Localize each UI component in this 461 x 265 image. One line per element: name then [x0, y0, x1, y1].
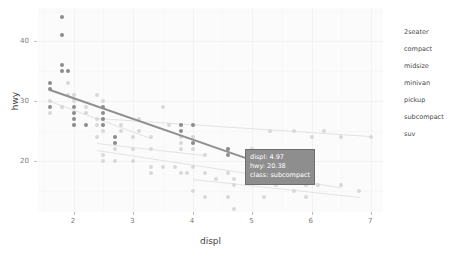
data-point-dim [84, 105, 88, 109]
legend-item-suv[interactable]: suv [404, 126, 461, 143]
data-point-dim [339, 135, 343, 139]
data-point-subcompact[interactable] [48, 81, 52, 85]
plot-panel[interactable] [38, 8, 383, 212]
data-point-dim [149, 165, 153, 169]
data-point-subcompact[interactable] [60, 63, 64, 67]
data-point-dim [48, 111, 52, 115]
data-point-subcompact[interactable] [60, 15, 64, 19]
data-point-dim [191, 189, 195, 193]
gridline-horizontal [38, 161, 383, 162]
legend-item-minivan[interactable]: minivan [404, 75, 461, 92]
tooltip-hwy: hwy: 20.38 [250, 162, 310, 171]
data-point-dim [84, 111, 88, 115]
legend-item-subcompact[interactable]: subcompact [404, 109, 461, 126]
x-tick-mark [74, 212, 75, 215]
legend-item-2seater[interactable]: 2seater [404, 24, 461, 41]
x-tick-label: 7 [368, 217, 372, 225]
gridline-vertical-minor [44, 8, 45, 212]
data-point-dim [149, 147, 153, 151]
x-tick-mark [133, 212, 134, 215]
data-point-dim [113, 147, 117, 151]
data-point-dim [119, 123, 123, 127]
x-tick-label: 4 [190, 217, 194, 225]
y-tick-label: 20 [20, 157, 29, 165]
data-point-dim [232, 207, 236, 211]
scatter-plot-root: 403020 234567 hwy displ 2seatercompactmi… [0, 0, 461, 265]
data-point-dim [131, 147, 135, 151]
x-tick-label: 3 [130, 217, 134, 225]
x-tick-mark [193, 212, 194, 215]
data-point-dim [66, 81, 70, 85]
data-point-dim [167, 123, 171, 127]
data-point-dim [179, 171, 183, 175]
data-point-dim [191, 165, 195, 169]
data-point-dim [191, 147, 195, 151]
y-tick-label: 40 [20, 37, 29, 45]
data-point-dim [226, 171, 230, 175]
data-point-dim [149, 171, 153, 175]
tooltip: displ: 4.97 hwy: 20.38 class: subcompact [245, 149, 315, 185]
data-point-dim [292, 129, 296, 133]
tooltip-class: class: subcompact [250, 171, 310, 180]
x-tick-label: 2 [71, 217, 75, 225]
data-point-subcompact[interactable] [72, 111, 76, 115]
data-point-subcompact[interactable] [101, 123, 105, 127]
data-point-dim [214, 177, 218, 181]
data-point-dim [203, 153, 207, 157]
data-point-dim [357, 189, 361, 193]
data-point-subcompact[interactable] [60, 33, 64, 37]
data-point-subcompact[interactable] [72, 117, 76, 121]
gridline-horizontal-minor [38, 71, 383, 72]
data-point-dim [292, 189, 296, 193]
data-point-subcompact[interactable] [191, 141, 195, 145]
x-tick-mark [312, 212, 313, 215]
data-point-subcompact[interactable] [60, 69, 64, 73]
data-point-subcompact[interactable] [179, 123, 183, 127]
data-point-dim [95, 117, 99, 121]
gridline-vertical-minor [341, 8, 342, 212]
legend-item-pickup[interactable]: pickup [404, 92, 461, 109]
y-axis-title: hwy [10, 92, 20, 110]
data-point-dim [316, 183, 320, 187]
data-point-dim [131, 159, 135, 163]
data-point-subcompact[interactable] [48, 87, 52, 91]
legend: 2seatercompactmidsizeminivanpickupsubcom… [404, 24, 461, 143]
data-point-dim [131, 135, 135, 139]
data-point-subcompact[interactable] [66, 69, 70, 73]
tooltip-displ: displ: 4.97 [250, 153, 310, 162]
data-point-dim [185, 171, 189, 175]
data-point-subcompact[interactable] [48, 105, 52, 109]
y-tick-mark [34, 41, 37, 42]
data-point-dim [149, 135, 153, 139]
legend-item-midsize[interactable]: midsize [404, 58, 461, 75]
gridline-vertical [193, 8, 194, 212]
gridline-horizontal-minor [38, 11, 383, 12]
data-point-dim [232, 177, 236, 181]
y-tick-mark [34, 101, 37, 102]
x-tick-label: 6 [309, 217, 313, 225]
data-point-subcompact[interactable] [72, 123, 76, 127]
data-point-subcompact[interactable] [191, 123, 195, 127]
data-point-subcompact[interactable] [101, 111, 105, 115]
data-point-dim [339, 183, 343, 187]
legend-item-compact[interactable]: compact [404, 41, 461, 58]
data-point-dim [101, 99, 105, 103]
data-point-dim [101, 159, 105, 163]
data-point-subcompact[interactable] [179, 129, 183, 133]
data-point-subcompact[interactable] [226, 153, 230, 157]
data-point-dim [322, 129, 326, 133]
gridline-horizontal [38, 41, 383, 42]
data-point-subcompact[interactable] [226, 147, 230, 151]
data-point-dim [232, 183, 236, 187]
data-point-subcompact[interactable] [84, 123, 88, 127]
data-point-subcompact[interactable] [113, 135, 117, 139]
data-point-dim [119, 129, 123, 133]
y-tick-label: 30 [20, 97, 29, 105]
data-point-dim [179, 141, 183, 145]
data-point-subcompact[interactable] [72, 105, 76, 109]
data-point-dim [179, 147, 183, 151]
data-point-dim [304, 195, 308, 199]
x-tick-mark [371, 212, 372, 215]
data-point-dim [95, 93, 99, 97]
x-axis-title: displ [38, 236, 383, 246]
